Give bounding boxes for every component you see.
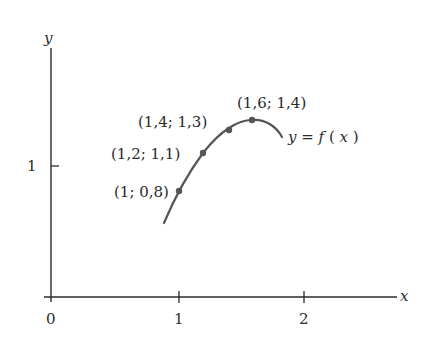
point-label-2: (1,2; 1,1) <box>111 145 180 163</box>
curve-label-x: x <box>340 128 349 146</box>
x-tick-label-1: 1 <box>174 310 184 328</box>
origin-label: 0 <box>46 310 56 328</box>
curve-label-f: f <box>318 128 327 146</box>
x-axis-label: x <box>400 287 409 305</box>
curve-f <box>164 120 282 223</box>
curve-label-eq: = <box>301 128 318 146</box>
curve-label-paren-close: ) <box>353 128 359 146</box>
function-graph: y x 0 1 2 1 (1; 0,8) (1,2; 1,1) (1,4; 1,… <box>0 0 427 338</box>
curve-label-paren-open: ( <box>329 128 335 146</box>
point-1 <box>176 188 182 194</box>
point-label-4: (1,6; 1,4) <box>237 94 306 112</box>
point-label-1: (1; 0,8) <box>114 183 169 201</box>
point-label-3: (1,4; 1,3) <box>138 113 207 131</box>
curve-label: y = f ( x ) <box>287 128 359 146</box>
point-2 <box>200 150 206 156</box>
point-4 <box>249 117 255 123</box>
curve-label-y: y <box>287 128 297 146</box>
x-tick-label-2: 2 <box>299 310 309 328</box>
y-axis-label: y <box>43 29 53 47</box>
point-3 <box>226 127 232 133</box>
y-tick-label-1: 1 <box>27 157 37 175</box>
